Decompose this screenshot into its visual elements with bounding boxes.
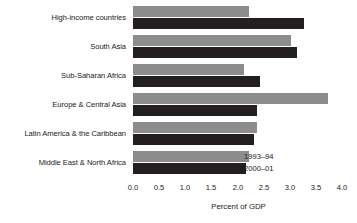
x-axis-tick-labels: 0.0 0.5 1.0 1.5 2.0 2.5 3.0 3.5 4.0	[133, 183, 344, 197]
bar-2000-01-high-income-countries	[133, 18, 304, 29]
plot-area: 1993–94 2000–01	[133, 6, 344, 180]
bar-1993-94-south-asia	[133, 35, 291, 46]
legend-swatch-2000-01-icon	[223, 163, 240, 174]
category-label-south-asia: South Asia	[0, 42, 126, 51]
bar-2000-01-south-asia	[133, 47, 297, 58]
category-label-europe-central-asia: Europe & Central Asia	[0, 100, 126, 109]
category-label-middle-east-north-africa: Middle East & North Africa	[0, 158, 126, 167]
bar-2000-01-europe-central-asia	[133, 105, 257, 116]
bar-2000-01-sub-saharan-africa	[133, 76, 260, 87]
bar-1993-94-latin-america-caribbean	[133, 122, 257, 133]
x-tick-8: 4.0	[327, 183, 357, 193]
category-label-sub-saharan-africa: Sub-Saharan Africa	[0, 71, 126, 80]
category-label-high-income-countries: High-income countries	[0, 13, 126, 22]
category-axis-labels: High-income countries South Asia Sub-Sah…	[0, 6, 131, 180]
x-tick-3: 1.5	[196, 183, 226, 193]
bar-1993-94-high-income-countries	[133, 6, 249, 17]
legend-label-1993-94: 1993–94	[244, 152, 274, 161]
legend-swatch-1993-94-icon	[223, 151, 240, 162]
bar-2000-01-latin-america-caribbean	[133, 134, 254, 145]
x-axis-title: Percent of GDP	[133, 202, 344, 212]
legend-label-2000-01: 2000–01	[244, 164, 274, 173]
category-label-latin-america-caribbean: Latin America & the Caribbean	[0, 129, 126, 138]
bar-chart: High-income countries South Asia Sub-Sah…	[0, 0, 357, 223]
bar-1993-94-europe-central-asia	[133, 93, 328, 104]
bar-1993-94-sub-saharan-africa	[133, 64, 244, 75]
